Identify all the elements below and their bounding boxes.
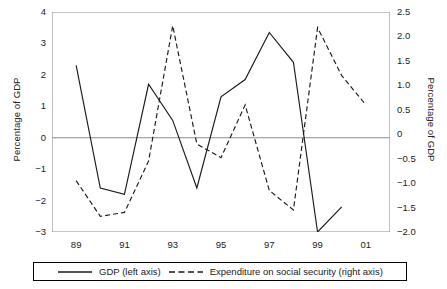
left-tick-label: −2 [20,195,46,206]
data-series [76,26,366,232]
plot-area [52,12,390,232]
left-tick-label: 2 [20,69,46,80]
legend-swatch-dashed-icon [168,267,204,277]
x-tick-label: 89 [64,239,88,250]
right-tick-label: 1.0 [397,79,427,90]
right-axis-title: Percentage of GDP [426,55,437,185]
chart-legend: GDP (left axis) Expenditure on social se… [33,262,407,281]
left-tick-label: −3 [20,226,46,237]
right-tick-label: −2.0 [397,226,427,237]
chart-figure: Percentage of GDP Percentage of GDP 4321… [0,0,447,289]
axis-frame [52,12,390,232]
legend-item-gdp: GDP (left axis) [57,266,161,277]
right-tick-label: −1.0 [397,177,427,188]
series-line-1 [76,32,342,232]
chart-canvas [52,12,390,232]
legend-label-expenditure: Expenditure on social security (right ax… [210,266,383,277]
tick-marks [52,12,390,232]
left-tick-label: 3 [20,37,46,48]
left-tick-label: 0 [20,132,46,143]
left-tick-label: 1 [20,100,46,111]
legend-swatch-solid-icon [57,267,93,277]
x-tick-label: 91 [112,239,136,250]
left-tick-label: −1 [20,163,46,174]
series-line-2 [76,26,366,217]
x-tick-label: 01 [354,239,378,250]
x-tick-label: 95 [209,239,233,250]
legend-item-expenditure: Expenditure on social security (right ax… [168,266,383,277]
left-tick-label: 4 [20,6,46,17]
right-tick-label: −0.5 [397,153,427,164]
x-tick-label: 97 [257,239,281,250]
right-tick-label: −1.5 [397,202,427,213]
right-tick-label: 2.5 [397,6,427,17]
legend-label-gdp: GDP (left axis) [99,266,161,277]
right-tick-label: 2.0 [397,30,427,41]
right-tick-label: 0.5 [397,104,427,115]
x-tick-label: 99 [306,239,330,250]
x-tick-label: 93 [161,239,185,250]
right-tick-label: 0 [397,128,427,139]
right-tick-label: 1.5 [397,55,427,66]
